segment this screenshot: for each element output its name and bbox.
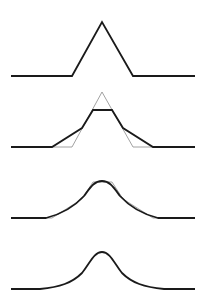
cut-polyline (11, 110, 195, 147)
guide-triangle (52, 92, 153, 147)
final-smooth-curve (11, 252, 195, 289)
panel-second-cut (11, 181, 195, 218)
smoothing-diagram (0, 0, 204, 308)
smoothed-curve (11, 181, 195, 218)
panel-original-triangle (11, 22, 195, 76)
triangle-curve (11, 22, 195, 76)
panel-smooth-curve (11, 252, 195, 289)
panel-first-cut (11, 92, 195, 147)
